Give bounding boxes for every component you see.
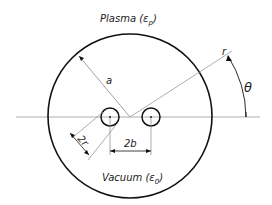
dim-2r-ext-bottom — [88, 125, 116, 160]
wire-left-center — [109, 116, 111, 118]
radius-r-label: r — [222, 46, 227, 57]
radius-r-line — [130, 51, 232, 117]
dim-2b-arrow-left — [110, 149, 115, 153]
dim-2r-arrow-top — [70, 133, 75, 138]
radius-a-arrowhead — [79, 56, 84, 61]
radius-a-label: a — [106, 75, 112, 86]
theta-arrowhead — [226, 55, 232, 61]
vacuum-label: Vacuum (ε0) — [102, 172, 163, 186]
wire-spacing-label: 2b — [124, 138, 137, 149]
dim-2r-arrow-bottom — [84, 150, 89, 155]
radius-a-line — [79, 56, 130, 117]
plasma-label: Plasma (εp) — [100, 13, 157, 27]
wire-right-center — [150, 116, 152, 118]
two-wire-plasma-diagram: Plasma (εp) Vacuum (ε0) a r θ 2b 2r — [0, 0, 272, 205]
theta-label: θ — [244, 80, 252, 95]
dim-2r-ext-top — [72, 112, 103, 138]
wire-diameter-label: 2r — [75, 133, 91, 149]
dim-2b-arrow-right — [146, 149, 151, 153]
